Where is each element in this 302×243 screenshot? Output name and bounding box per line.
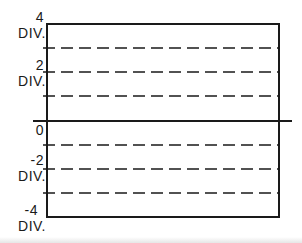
label-2-unit: DIV. <box>8 74 46 88</box>
label-minus-4-value: -4 <box>8 203 38 217</box>
label-minus-4-unit: DIV. <box>8 219 46 233</box>
label-4-value: 4 <box>24 10 44 24</box>
label-2-value: 2 <box>24 58 44 72</box>
label-0-value: 0 <box>24 123 44 137</box>
label-4-unit: DIV. <box>8 26 46 40</box>
scan-edge <box>0 237 302 243</box>
label-minus-2-value: -2 <box>14 153 44 167</box>
label-minus-2-unit: DIV. <box>8 169 46 183</box>
